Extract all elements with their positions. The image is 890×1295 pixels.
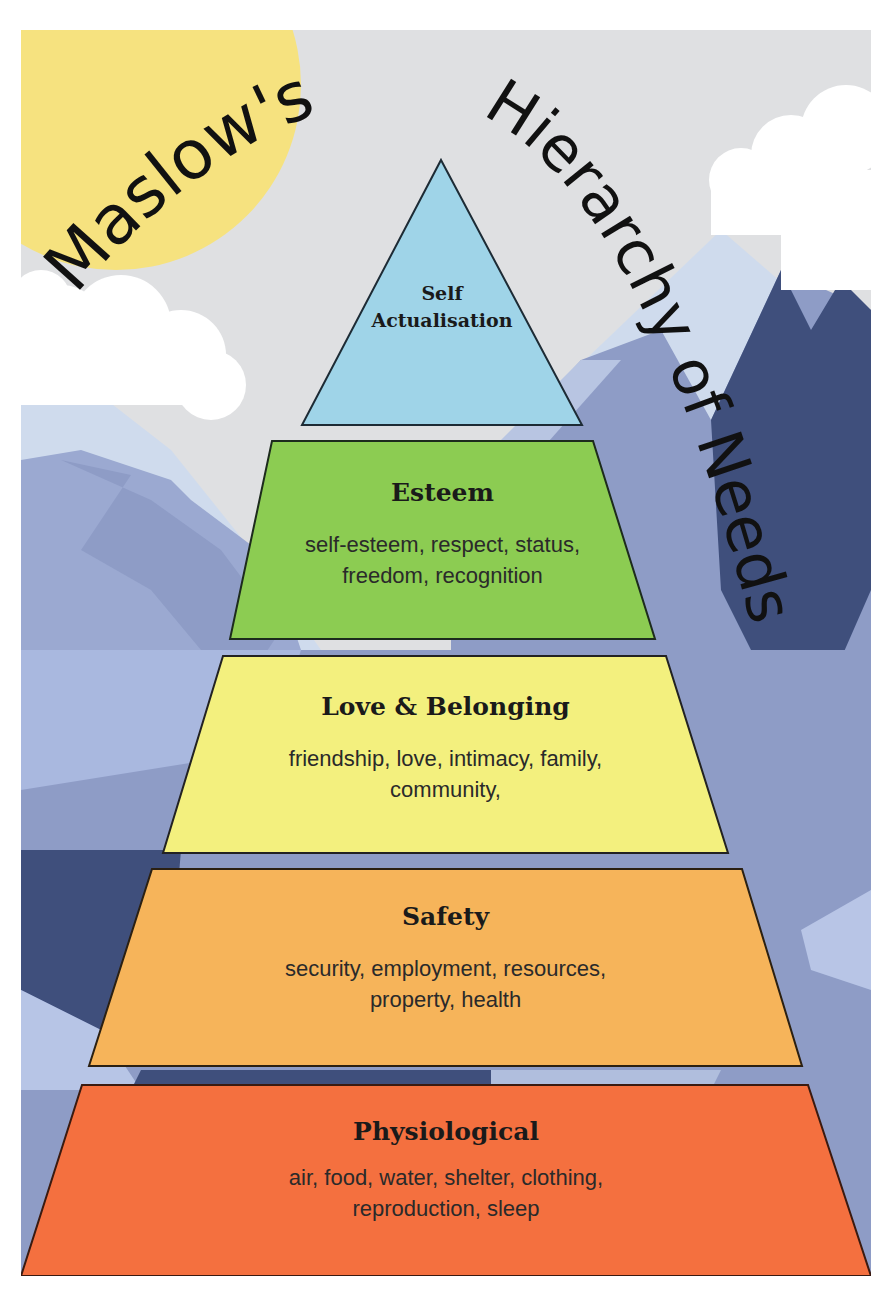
tier-title: Safety — [89, 902, 802, 931]
tier-title: Love & Belonging — [163, 692, 728, 721]
tier-title: Esteem — [230, 478, 655, 507]
tier-love-belonging: Love & Belonging friendship, love, intim… — [163, 692, 728, 805]
tier-self-actualisation: Self Actualisation — [342, 280, 542, 334]
tier-physiological: Physiological air, food, water, shelter,… — [21, 1117, 871, 1224]
tier-description: security, employment, resources, propert… — [89, 953, 802, 1015]
poster-title: Maslow's Hierarchy of Needs — [21, 30, 871, 1276]
tier-description: friendship, love, intimacy, family, comm… — [163, 743, 728, 805]
tier-title: Self — [342, 280, 542, 307]
tier-description: air, food, water, shelter, clothing, rep… — [21, 1162, 871, 1224]
tier-safety: Safety security, employment, resources, … — [89, 902, 802, 1015]
maslow-poster: Maslow's Hierarchy of Needs Self Actuali… — [21, 30, 871, 1276]
tier-description: self-esteem, respect, status, freedom, r… — [230, 529, 655, 591]
tier-title: Actualisation — [342, 307, 542, 334]
title-maslows: Maslow's — [29, 54, 324, 305]
tier-esteem: Esteem self-esteem, respect, status, fre… — [230, 478, 655, 591]
tier-title: Physiological — [21, 1117, 871, 1146]
